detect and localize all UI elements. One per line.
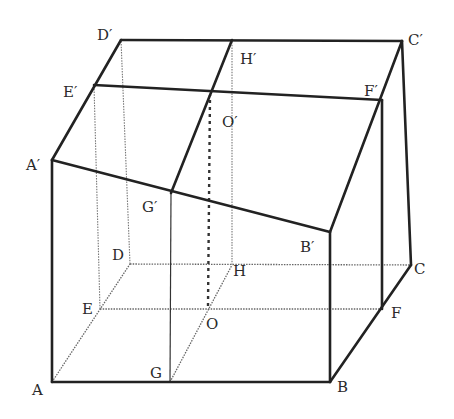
label-F: F: [391, 304, 401, 322]
edge-E-E1: [94, 85, 100, 309]
edge-G-H: [170, 265, 232, 382]
edge-E1-F1: [94, 85, 382, 100]
thin-edges: [170, 193, 171, 382]
vertex-labels: A G B E O F D H C A′ G′ B′ E′ O′ F′ D′ H…: [25, 26, 425, 399]
label-A: A: [31, 381, 43, 399]
label-H: H: [233, 262, 246, 280]
label-C: C: [414, 260, 425, 278]
label-D: D: [112, 246, 124, 264]
edge-C-C1: [402, 41, 411, 265]
edge-D-C: [130, 264, 411, 265]
label-O-prime: O′: [222, 113, 238, 131]
label-F-prime: F′: [364, 82, 378, 100]
label-G-prime: G′: [142, 198, 158, 216]
edge-B-C: [330, 265, 411, 382]
label-G: G: [150, 364, 162, 382]
label-E: E: [82, 300, 93, 318]
label-B-prime: B′: [300, 238, 315, 256]
label-D-prime: D′: [97, 26, 113, 44]
label-H-prime: H′: [240, 50, 257, 68]
label-B: B: [337, 378, 348, 396]
prism-diagram: A G B E O F D H C A′ G′ B′ E′ O′ F′ D′ H…: [0, 0, 454, 419]
label-E-prime: E′: [63, 83, 78, 101]
edge-D1-C1: [121, 40, 402, 41]
edge-G-G1: [170, 193, 171, 382]
edge-A-D: [52, 264, 130, 382]
label-O: O: [206, 315, 218, 333]
edge-B1-C1: [330, 41, 402, 232]
label-C-prime: C′: [408, 31, 423, 49]
edge-A1-B1: [52, 160, 330, 232]
edge-D-D1: [121, 40, 130, 264]
label-A-prime: A′: [25, 156, 41, 174]
